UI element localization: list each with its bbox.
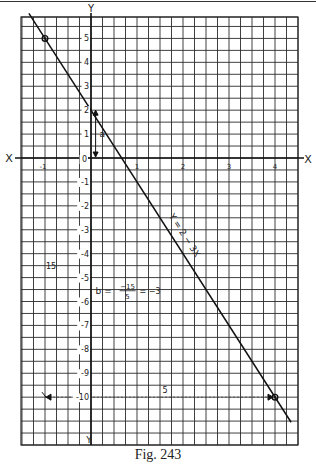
grid-border — [21, 17, 298, 445]
y-tick-label: -4 — [81, 250, 89, 259]
y-tick-label: -8 — [81, 345, 89, 354]
y-tick-label: 4 — [84, 58, 89, 67]
x-tick-label: 4 — [273, 163, 278, 171]
y-tick-label: -3 — [81, 226, 89, 235]
figure-caption: Fig. 243 — [0, 447, 316, 463]
arrow-left-icon — [46, 394, 51, 400]
y-tick-label: 2 — [84, 106, 89, 115]
slope-prefix: b = — [96, 286, 112, 296]
y-tick-label: 5 — [84, 34, 89, 43]
x-tick-label: 3 — [227, 163, 231, 171]
rise-label: 15 — [46, 262, 56, 271]
y-tick-label: -1 — [81, 178, 89, 187]
y-axis-label-top: Y — [87, 3, 95, 14]
arrow-up-icon — [93, 110, 98, 115]
y-tick-label: 3 — [84, 82, 89, 91]
y-tick-label: -5 — [81, 274, 89, 283]
slope-numerator: −15 — [120, 283, 135, 291]
y-tick-label: -2 — [81, 202, 89, 211]
graph-figure: XXYY0-1123454321-1-2-3-4-5-6-7-8-9-10a15… — [0, 0, 316, 468]
data-point-dot — [274, 396, 276, 398]
intercept-label-a: a — [100, 129, 106, 139]
y-tick-label: -6 — [81, 298, 89, 307]
y-tick-label: -9 — [81, 369, 89, 378]
arrows — [42, 110, 273, 400]
y-axis-label-bottom: Y — [85, 435, 92, 445]
x-tick-label: -1 — [40, 163, 47, 171]
y-tick-label: -10 — [76, 393, 89, 402]
arrow-down-icon — [93, 152, 98, 157]
slope-denominator: 5 — [125, 293, 129, 301]
y-tick-label: 1 — [84, 130, 89, 139]
slope-result: = −3 — [140, 287, 161, 296]
y-tick-label: -7 — [81, 321, 89, 330]
x-axis-label-right: X — [304, 153, 312, 166]
x-axis-label-left: X — [5, 152, 13, 165]
labels: XXYY0-1123454321-1-2-3-4-5-6-7-8-9-10a15… — [5, 3, 312, 445]
axes — [15, 13, 304, 445]
x-tick-label: 2 — [181, 163, 185, 171]
grid — [21, 17, 298, 445]
origin-label: 0 — [82, 155, 87, 164]
run-label: 5 — [162, 386, 167, 395]
x-tick-label: 1 — [135, 163, 139, 171]
data-point-dot — [44, 37, 46, 39]
